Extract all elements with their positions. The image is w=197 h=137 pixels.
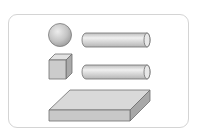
sphere-shape [49, 24, 72, 47]
shapes-illustration [0, 0, 197, 137]
cylinder-bottom-shape [82, 65, 150, 79]
cube-shape [49, 54, 72, 79]
cylinder-top-shape [82, 33, 150, 47]
slab-shape [49, 90, 150, 121]
